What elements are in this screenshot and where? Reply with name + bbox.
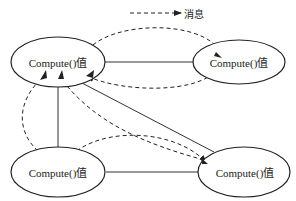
message-top-left-to-top-right bbox=[88, 28, 221, 52]
diagram-canvas: 消息 Compute()值 Compute()值 Compute()值 Comp… bbox=[0, 0, 296, 201]
legend-label: 消息 bbox=[184, 6, 204, 21]
message-bottom-right-to-top-left bbox=[60, 77, 204, 160]
node-label-top-right: Compute()值 bbox=[210, 54, 269, 70]
message-bottom-left-to-top-left-outer bbox=[22, 78, 42, 151]
node-label-top-left: Compute()值 bbox=[29, 54, 88, 70]
node-label-bottom-left: Compute()值 bbox=[29, 164, 88, 180]
node-label-bottom-right: Compute()值 bbox=[216, 164, 275, 180]
